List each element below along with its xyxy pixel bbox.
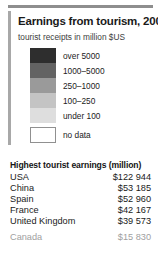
tourism-earnings-infographic: Earnings from tourism, 2005 tourist rece… — [0, 0, 158, 258]
country-value: $52 960 — [118, 194, 151, 204]
legend-item-over-5000: over 5000 — [30, 48, 154, 63]
country-value: $42 167 — [118, 205, 151, 215]
legend-item-label: under 100 — [63, 111, 100, 121]
legend-item-under-100: under 100 — [30, 108, 154, 123]
panel-subtitle: tourist receipts in million $US — [18, 32, 154, 42]
earnings-table: USA $122 944 China $53 185 Spain $52 960… — [10, 172, 151, 243]
legend-item-1000-5000: 1000–5000 — [30, 63, 154, 78]
country-name: Canada — [10, 232, 42, 242]
country-value: $122 944 — [113, 172, 151, 182]
legend-item-no-data: no data — [30, 127, 154, 143]
legend-item-label: no data — [63, 130, 91, 140]
legend-accent-bar — [8, 11, 11, 145]
legend-item-label: 100–250 — [63, 96, 95, 106]
page-title: Earnings from tourism, 2005 — [18, 15, 154, 27]
table-row-canada: Canada $15 830 — [10, 232, 151, 243]
table-row: USA $122 944 — [10, 172, 151, 183]
legend-swatch — [30, 93, 56, 108]
legend-swatch — [30, 127, 56, 143]
legend-item-250-1000: 250–1000 — [30, 78, 154, 93]
table-row: China $53 185 — [10, 183, 151, 194]
legend-item-100-250: 100–250 — [30, 93, 154, 108]
top-divider-rule — [8, 5, 153, 8]
table-title: Highest tourist earnings (million) — [10, 160, 141, 170]
legend-item-label: 250–1000 — [63, 81, 100, 91]
country-name: USA — [10, 172, 29, 182]
legend-item-label: over 5000 — [63, 51, 100, 61]
earnings-table-panel: Highest tourist earnings (million) USA $… — [8, 160, 153, 240]
country-name: United Kingdom — [10, 216, 75, 226]
table-row: France $42 167 — [10, 205, 151, 216]
country-name: China — [10, 183, 34, 193]
legend-list: over 5000 1000–5000 250–1000 100–250 und… — [30, 48, 154, 143]
legend-panel: Earnings from tourism, 2005 tourist rece… — [8, 11, 153, 145]
table-row: Spain $52 960 — [10, 194, 151, 205]
legend-swatch — [30, 63, 56, 78]
legend-item-label: 1000–5000 — [63, 66, 105, 76]
legend-swatch — [30, 48, 56, 63]
table-row: United Kingdom $39 573 — [10, 216, 151, 227]
country-value: $15 830 — [118, 232, 151, 242]
country-name: Spain — [10, 194, 34, 204]
country-name: France — [10, 205, 39, 215]
country-value: $39 573 — [118, 216, 151, 226]
country-value: $53 185 — [118, 183, 151, 193]
legend-swatch — [30, 108, 56, 123]
legend-swatch — [30, 78, 56, 93]
